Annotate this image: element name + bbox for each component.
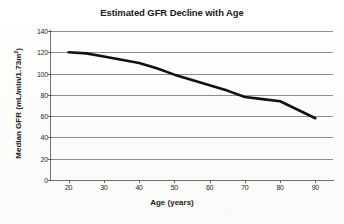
y-axis-title-suffix: ) xyxy=(14,48,23,51)
y-axis-tick-label: 80 xyxy=(22,91,48,98)
x-axis-tick-label: 70 xyxy=(241,184,248,191)
x-axis-tick-label: 40 xyxy=(135,184,142,191)
y-axis-tick-label: 120 xyxy=(22,49,48,56)
y-axis-title: Median GFR (mL/min/1.73m2) xyxy=(13,28,24,178)
x-axis-tick-mark xyxy=(174,180,175,183)
x-axis-tick-mark xyxy=(280,180,281,183)
x-axis-tick-label: 30 xyxy=(100,184,107,191)
x-axis-tick-label: 20 xyxy=(65,184,72,191)
y-axis-title-exponent: 2 xyxy=(13,51,19,54)
y-axis-title-prefix: Median GFR (mL/min/1.73m xyxy=(14,54,23,159)
chart-figure: Estimated GFR Decline with Age 020406080… xyxy=(0,0,344,224)
y-axis-tick-label: 60 xyxy=(22,113,48,120)
y-axis-tick-label: 140 xyxy=(22,28,48,35)
x-axis-tick-mark xyxy=(69,180,70,183)
x-axis-tick-mark xyxy=(315,180,316,183)
y-axis-tick-label: 0 xyxy=(22,177,48,184)
x-axis-tick-label: 90 xyxy=(312,184,319,191)
x-axis-tick-mark xyxy=(139,180,140,183)
x-axis-title: Age (years) xyxy=(0,198,344,207)
y-axis-tick-label: 40 xyxy=(22,134,48,141)
y-axis-tick-mark xyxy=(48,180,52,181)
x-axis-tick-mark xyxy=(210,180,211,183)
x-axis-tick-mark xyxy=(104,180,105,183)
y-axis-tick-label: 20 xyxy=(22,155,48,162)
x-axis-tick-labels: 2030405060708090 xyxy=(0,184,344,196)
chart-title: Estimated GFR Decline with Age xyxy=(0,7,344,18)
x-axis-tick-mark xyxy=(245,180,246,183)
x-axis-tick-label: 50 xyxy=(171,184,178,191)
x-axis-tick-label: 80 xyxy=(276,184,283,191)
x-axis-tick-label: 60 xyxy=(206,184,213,191)
data-series-layer xyxy=(51,31,333,180)
gfr-decline-line xyxy=(69,52,316,118)
y-axis-tick-label: 100 xyxy=(22,70,48,77)
x-axis-line xyxy=(50,180,334,181)
